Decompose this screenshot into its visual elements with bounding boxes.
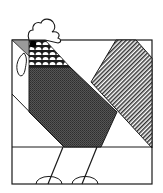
eye [30, 41, 36, 47]
rooster-quilt-illustration: Rooster quilt block [0, 0, 163, 193]
comb [28, 19, 60, 43]
